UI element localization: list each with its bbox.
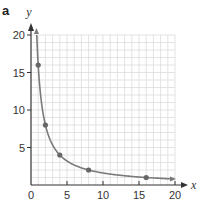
hyperbola-chart: 051015205101520 x y [0,0,202,204]
y-axis-label: y [25,5,32,19]
y-axis-arrow-icon [28,23,34,31]
curve-line [37,35,172,179]
data-point [144,175,149,180]
x-axis-label: x [190,178,197,192]
data-point [36,62,41,67]
x-tick-label: 15 [133,189,145,201]
data-point [43,122,48,127]
y-tick-label: 20 [13,29,25,41]
y-tick-label: 10 [13,104,25,116]
data-point [57,152,62,157]
y-tick-label: 15 [13,67,25,79]
x-tick-label: 5 [64,189,70,201]
data-point [86,167,91,172]
x-tick-label: 10 [97,189,109,201]
x-axis-arrow-icon [181,182,188,188]
grid-lines [31,35,175,185]
curve-arrow-top-icon [34,28,39,34]
x-tick-label: 20 [169,189,181,201]
x-tick-label: 0 [28,189,34,201]
y-tick-label: 5 [19,142,25,154]
axes [28,23,188,188]
